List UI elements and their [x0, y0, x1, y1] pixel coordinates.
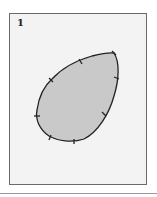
teardrop-shape	[37, 53, 119, 141]
teardrop-diagram	[0, 0, 157, 197]
bottom-divider	[0, 193, 157, 194]
